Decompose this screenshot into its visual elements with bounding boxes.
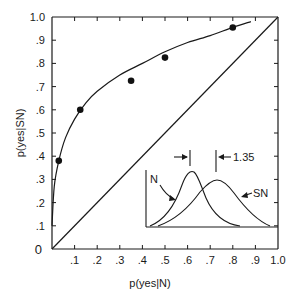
x-tick-label: .3 bbox=[115, 254, 124, 266]
y-tick-label: .5 bbox=[36, 127, 45, 139]
data-point bbox=[162, 54, 169, 61]
y-tick-label: .2 bbox=[36, 197, 45, 209]
x-tick-label: .7 bbox=[206, 254, 215, 266]
y-tick-label: 0 bbox=[35, 242, 42, 257]
y-tick-label: .3 bbox=[36, 173, 45, 185]
x-axis-label: p(yes|N) bbox=[129, 277, 170, 289]
x-tick-label: .6 bbox=[183, 254, 192, 266]
y-tick-label: .9 bbox=[36, 34, 45, 46]
y-tick-label: .8 bbox=[36, 57, 45, 69]
signal-noise-label: SN bbox=[253, 187, 268, 199]
separation-label: 1.35 bbox=[233, 151, 254, 163]
x-tick-label: .2 bbox=[93, 254, 102, 266]
y-axis-label: p(yes|SN) bbox=[14, 109, 26, 158]
y-tick-label: .1 bbox=[36, 220, 45, 232]
y-tick-label: .7 bbox=[36, 81, 45, 93]
x-tick-label: .9 bbox=[251, 254, 260, 266]
noise-label: N bbox=[150, 173, 158, 185]
x-tick-label: .4 bbox=[138, 254, 147, 266]
x-tick-label: .1 bbox=[70, 254, 79, 266]
roc-chart: .1.2.3.4.5.6.7.8.91.0 0.1.2.3.4.5.6.7.8.… bbox=[0, 0, 292, 301]
data-points bbox=[55, 24, 236, 164]
data-point bbox=[230, 24, 237, 31]
y-tick-label: .6 bbox=[36, 104, 45, 116]
x-tick-label: .5 bbox=[160, 254, 169, 266]
data-point bbox=[128, 78, 135, 85]
data-point bbox=[55, 158, 62, 165]
x-tick-label: 1.0 bbox=[270, 254, 285, 266]
x-tick-labels: .1.2.3.4.5.6.7.8.91.0 bbox=[70, 254, 286, 266]
y-tick-label: .4 bbox=[36, 150, 45, 162]
x-tick-label: .8 bbox=[228, 254, 237, 266]
y-tick-label: 1.0 bbox=[30, 11, 45, 23]
roc-curve bbox=[52, 22, 251, 226]
data-point bbox=[77, 107, 84, 114]
y-tick-labels: 0.1.2.3.4.5.6.7.8.91.0 bbox=[30, 11, 45, 257]
